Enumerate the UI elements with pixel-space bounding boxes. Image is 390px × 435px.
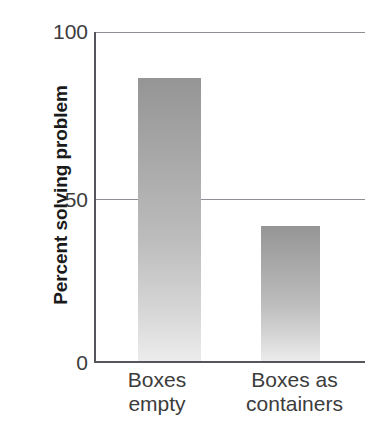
bar-boxes-empty [138,78,201,361]
bar-chart-figure: Percent solving problem 100 50 0 Boxes e… [0,0,390,435]
y-axis-tick-label-50: 50 [30,189,88,210]
x-axis-line [94,361,365,363]
y-axis-tick-label-0: 0 [30,352,88,373]
bar-boxes-as-containers [261,226,320,361]
y-axis-line [94,32,96,363]
gridline-100 [94,32,365,33]
plot-area [94,32,365,363]
gridline-50 [94,199,365,200]
x-axis-category-label-boxes-empty: Boxes empty [102,368,212,415]
x-axis-category-label-boxes-as-containers: Boxes as containers [222,368,367,415]
y-axis-tick-label-100: 100 [30,21,88,42]
